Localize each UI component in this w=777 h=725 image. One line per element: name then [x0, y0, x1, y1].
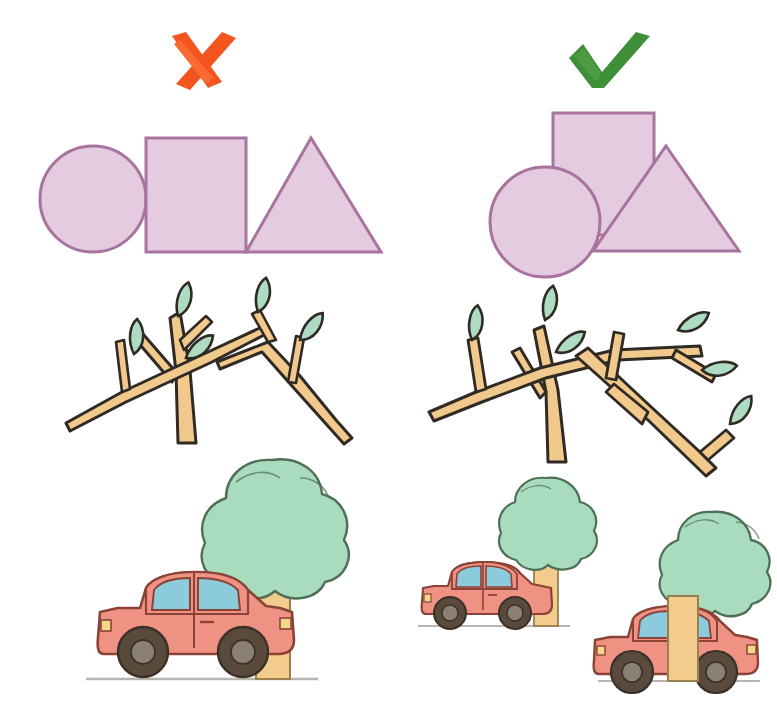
- shapes-overlap-group: [490, 113, 739, 277]
- leaf-icon: [168, 281, 199, 318]
- car-wheel-front: [611, 651, 653, 693]
- cross-mark-icon: ✘: [172, 32, 236, 90]
- scene-flat-group: [86, 459, 349, 679]
- car-headlight: [597, 646, 605, 655]
- car-wheel-rear: [218, 627, 268, 677]
- branches-overlap-group: [429, 285, 759, 476]
- shape-triangle-flat: [246, 138, 381, 252]
- branch-right-flat: [217, 277, 352, 444]
- shapes-flat-group: [40, 138, 381, 252]
- leaf-icon: [535, 285, 564, 322]
- comparison-illustration: ✘ ✔: [0, 0, 777, 725]
- leaf-icon: [723, 394, 759, 427]
- shape-circle-overlap: [490, 167, 600, 277]
- car-headlight: [101, 620, 111, 631]
- car-wheel-front: [118, 627, 168, 677]
- shape-circle-flat: [40, 146, 146, 252]
- shape-square-flat: [146, 138, 246, 252]
- scene-depth-group: [418, 478, 770, 693]
- branches-flat-group: [66, 277, 352, 444]
- car-wheel-front: [434, 597, 466, 629]
- car-far: [422, 562, 552, 629]
- check-mark-label: ✔: [600, 61, 601, 62]
- leaf-icon: [293, 311, 330, 343]
- car-wheel-rear: [695, 651, 737, 693]
- check-mark-icon: ✔: [569, 32, 650, 88]
- leaf-icon: [248, 277, 277, 314]
- car-headlight: [424, 594, 431, 602]
- car-taillight: [747, 645, 756, 654]
- branch-left-flat: [66, 327, 266, 431]
- car-wheel-rear: [499, 597, 531, 629]
- tree-foliage: [499, 478, 597, 570]
- leaf-icon: [462, 304, 490, 341]
- leaf-icon: [675, 311, 712, 334]
- scene-pair-far: [418, 478, 597, 629]
- scene-pair-near: [594, 512, 771, 693]
- car-taillight: [280, 618, 291, 629]
- illustration-canvas: ✘ ✔: [0, 0, 777, 725]
- tree-trunk-near-overlapping-car: [668, 596, 698, 681]
